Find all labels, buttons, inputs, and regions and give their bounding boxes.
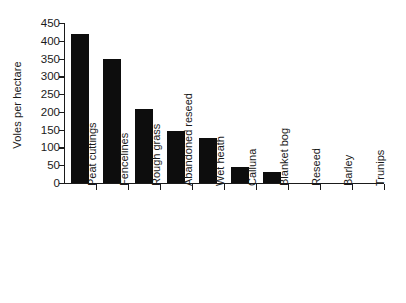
y-tick-label: 250 bbox=[26, 88, 60, 100]
x-axis-category-labels: Peat cuttingsFencelinesRough grassAbando… bbox=[64, 186, 394, 298]
y-axis-tick-labels: 050100150200250300350400450 bbox=[26, 17, 60, 189]
y-tick-label: 450 bbox=[26, 17, 60, 29]
x-axis-label: Abandoned reseed bbox=[181, 93, 195, 186]
y-axis-line bbox=[64, 23, 65, 183]
y-tick-mark bbox=[59, 165, 64, 166]
y-tick-label: 150 bbox=[26, 124, 60, 136]
x-axis-label: Trunips bbox=[373, 150, 387, 186]
y-axis-title-text: Voles per hectare bbox=[11, 61, 23, 148]
x-axis-label: Fencelines bbox=[117, 133, 131, 186]
y-tick-label: 350 bbox=[26, 53, 60, 65]
y-tick-mark bbox=[59, 112, 64, 113]
y-tick-mark bbox=[59, 23, 64, 24]
y-tick-label: 0 bbox=[26, 177, 60, 189]
y-tick-mark bbox=[59, 76, 64, 77]
x-axis-label: Calluna bbox=[245, 149, 259, 186]
y-tick-mark bbox=[59, 41, 64, 42]
y-tick-label: 200 bbox=[26, 106, 60, 118]
y-tick-label: 100 bbox=[26, 141, 60, 153]
y-tick-label: 300 bbox=[26, 70, 60, 82]
x-axis-label: Rough grass bbox=[149, 124, 163, 186]
y-tick-label: 50 bbox=[26, 159, 60, 171]
bar-chart-figure: Voles per hectare 0501001502002503003504… bbox=[0, 0, 406, 303]
y-tick-label: 400 bbox=[26, 35, 60, 47]
x-axis-label: Barley bbox=[341, 155, 355, 186]
x-axis-label: Wet heath bbox=[213, 136, 227, 186]
x-axis-label: Blanket bog bbox=[277, 128, 291, 186]
x-axis-label: Peat cuttings bbox=[85, 122, 99, 186]
y-axis-title: Voles per hectare bbox=[8, 40, 26, 170]
x-axis-label: Reseed bbox=[309, 148, 323, 186]
y-tick-mark bbox=[59, 59, 64, 60]
y-tick-mark bbox=[59, 94, 64, 95]
y-tick-mark bbox=[59, 183, 64, 184]
y-tick-mark bbox=[59, 130, 64, 131]
y-tick-mark bbox=[59, 147, 64, 148]
